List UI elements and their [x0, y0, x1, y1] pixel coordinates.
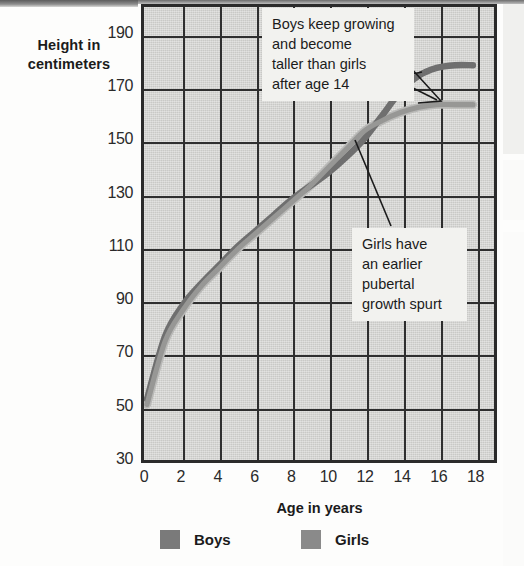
page-margin-bleed — [503, 0, 524, 566]
legend-swatch-girls-icon — [301, 530, 321, 549]
y-tick-label-30: 30 — [91, 450, 133, 468]
x-tick-label-18: 18 — [463, 468, 489, 486]
callout-girls-puberty: Girls have an earlier pubertal growth sp… — [352, 228, 467, 321]
legend-swatch-boys-icon — [160, 530, 180, 549]
callout-boys-line3: taller than girls — [272, 54, 405, 74]
bleed-block-top — [503, 4, 524, 154]
callout-girls-line3: pubertal — [362, 274, 458, 294]
callout-girls-line1: Girls have — [362, 234, 458, 254]
callout-boys-line1: Boys keep growing — [272, 14, 405, 34]
x-tick-label-2: 2 — [168, 468, 194, 486]
y-tick-label-190: 190 — [91, 24, 133, 42]
legend-item-girls: Girls — [301, 530, 369, 549]
y-tick-label-130: 130 — [91, 184, 133, 202]
chart-page: Height in centimeters 190170150130110907… — [0, 0, 524, 566]
y-tick-label-70: 70 — [91, 343, 133, 361]
scan-artifact-top-left — [0, 0, 138, 7]
x-axis-title: Age in years — [142, 500, 497, 516]
y-axis-title: Height in centimeters — [8, 36, 130, 74]
x-tick-label-16: 16 — [426, 468, 452, 486]
chart-legend: Boys Girls — [141, 530, 497, 560]
callout-boys-grow: Boys keep growing and become taller than… — [262, 8, 414, 101]
legend-label-girls: Girls — [335, 531, 369, 548]
y-tick-label-150: 150 — [91, 130, 133, 148]
legend-item-boys: Boys — [160, 530, 231, 549]
callout-girls-line4: growth spurt — [362, 294, 458, 314]
callout-boys-line2: and become — [272, 34, 405, 54]
y-tick-label-50: 50 — [91, 397, 133, 415]
x-tick-label-8: 8 — [278, 468, 304, 486]
y-axis-title-line2: centimeters — [8, 55, 130, 74]
x-tick-label-6: 6 — [242, 468, 268, 486]
y-tick-label-170: 170 — [91, 77, 133, 95]
callout-girls-line2: an earlier — [362, 254, 458, 274]
x-tick-label-14: 14 — [389, 468, 415, 486]
y-tick-label-90: 90 — [91, 290, 133, 308]
x-tick-label-12: 12 — [352, 468, 378, 486]
callout-boys-line4: after age 14 — [272, 74, 405, 94]
y-tick-label-110: 110 — [91, 237, 133, 255]
legend-label-boys: Boys — [194, 531, 231, 548]
bleed-block-bottom — [503, 232, 524, 566]
x-tick-label-0: 0 — [131, 468, 157, 486]
x-tick-label-4: 4 — [205, 468, 231, 486]
x-tick-label-10: 10 — [315, 468, 341, 486]
bleed-block-mid — [503, 160, 524, 220]
